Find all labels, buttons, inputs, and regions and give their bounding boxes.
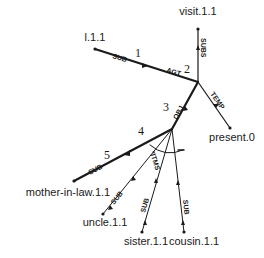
- edge-label-sub-l: SUB: [112, 52, 128, 63]
- edge-label-sub-uncle: SUB: [109, 190, 124, 206]
- number-4: 4: [138, 124, 144, 138]
- edge-label-temp: TEMP: [209, 91, 226, 111]
- node-uncle: uncle.1.1: [83, 216, 128, 228]
- edge-label-sub-cousin: SUB: [182, 199, 191, 214]
- edge-label-subs: SUBS: [200, 38, 207, 58]
- node-visit: visit.1.1: [179, 5, 216, 17]
- edge-markers: [72, 27, 231, 233]
- semantic-network-diagram: visit.1.1 l.1.1 present.0 mother-in-law.…: [0, 0, 264, 258]
- edge-obj: [172, 82, 198, 129]
- edges: [74, 29, 230, 232]
- node-sister: sister.1.1: [124, 235, 168, 247]
- node-present: present.0: [209, 131, 255, 143]
- node-mother-in-law: mother-in-law.1.1: [26, 186, 110, 198]
- node-l: l.1.1: [85, 31, 106, 43]
- number-5: 5: [104, 148, 110, 162]
- edge-label-itms: *ITMS: [149, 150, 161, 171]
- number-1: 1: [135, 46, 141, 60]
- edge-label-agt: AGT: [166, 66, 183, 77]
- number-2: 2: [184, 62, 190, 76]
- node-cousin: cousin.1.1: [169, 235, 219, 247]
- edge-label-obj: OBJ: [172, 104, 185, 120]
- edge-label-sub-mother: SUB: [87, 163, 103, 176]
- number-3: 3: [163, 100, 169, 114]
